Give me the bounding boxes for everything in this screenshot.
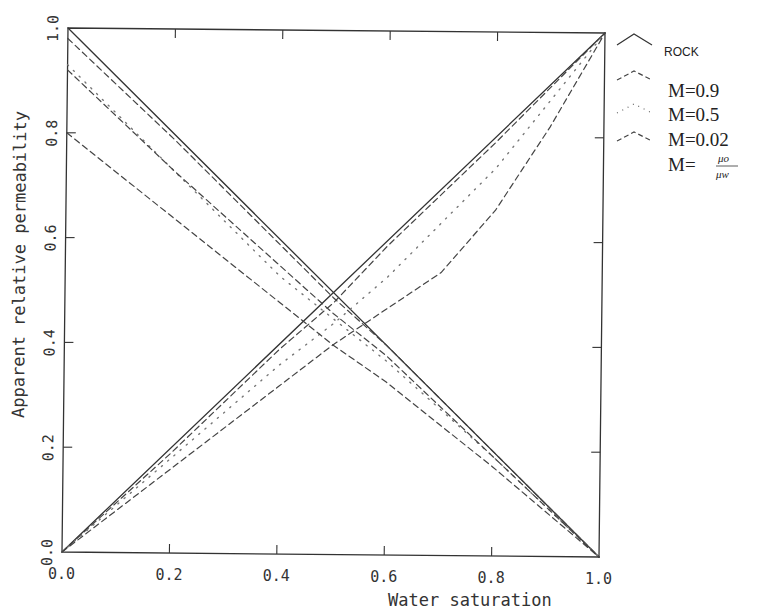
x-tick-label: 0.8 <box>478 569 505 587</box>
x-axis-ticks: 0.00.20.40.60.81.0 <box>48 29 612 588</box>
x-axis-title: Water saturation <box>388 590 552 610</box>
series-line-m-0-5-oil <box>68 65 599 557</box>
legend-item-m-definition: M= μo μw <box>668 152 738 180</box>
legend-item-m002: M=0.02 <box>617 129 729 150</box>
fraction-numerator: μo <box>717 152 730 164</box>
legend-item-rock: ROCK <box>617 34 699 59</box>
y-axis-ticks: 0.00.20.40.60.81.0 <box>38 15 604 566</box>
series-line-m-0-02-oil-upper <box>68 70 599 557</box>
y-tick-label: 1.0 <box>44 15 62 42</box>
legend-label-rock: ROCK <box>664 45 699 59</box>
legend-label-m09: M=0.9 <box>668 80 719 101</box>
legend-item-m09: M=0.9 <box>617 71 719 101</box>
x-tick-label: 0.2 <box>155 566 182 584</box>
x-tick-label: 0.6 <box>370 568 397 586</box>
series-layer <box>62 28 605 557</box>
y-tick-label: 0.4 <box>40 329 58 356</box>
y-tick-label: 0.2 <box>39 434 57 461</box>
fraction-denominator: μw <box>715 168 730 180</box>
y-tick-label: 0.6 <box>42 224 60 251</box>
x-tick-label: 1.0 <box>585 570 612 588</box>
x-tick-label: 0.0 <box>48 565 75 583</box>
legend: ROCK M=0.9 M=0.5 M=0.02 M= μo μw <box>617 34 738 180</box>
y-tick-label: 0.0 <box>38 539 56 566</box>
y-axis-title: Apparent relative permeability <box>8 111 30 418</box>
legend-swatch-dashed <box>617 132 652 141</box>
series-line-m-0-9-oil <box>68 38 599 557</box>
legend-item-m05: M=0.5 <box>617 104 719 125</box>
legend-label-m05: M=0.5 <box>668 104 719 125</box>
permeability-chart: 0.00.20.40.60.81.0 0.00.20.40.60.81.0 Wa… <box>0 0 765 612</box>
legend-label-m002: M=0.02 <box>668 129 729 150</box>
legend-swatch-dotted <box>617 104 652 113</box>
x-tick-label: 0.4 <box>263 567 290 585</box>
legend-label-m-def: M= <box>668 154 696 175</box>
series-line-rock-water <box>62 33 605 552</box>
y-tick-label: 0.8 <box>43 120 61 147</box>
legend-swatch-solid <box>617 34 652 45</box>
legend-swatch-dashed <box>617 71 652 80</box>
